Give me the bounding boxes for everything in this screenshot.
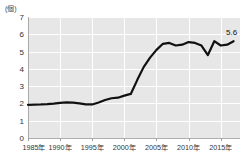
y-axis-unit-label: (個) [5,4,17,13]
y-axis-tick-label: 3 [20,82,25,91]
x-axis-tick-label: 2010年 [177,143,200,152]
x-axis-tick-label: 2015年 [209,143,232,152]
data-point-annotations: 5.6 [226,28,238,37]
x-axis-tick-label: 2000年 [113,143,136,152]
data-point-label: 5.6 [226,28,238,37]
y-axis-tick-label: 1 [20,117,25,126]
line-chart: (個) 01234567 1985年1990年1995年2000年2005年20… [0,0,248,159]
y-axis-tick-label: 6 [20,30,25,39]
x-axis-tick-label: 1990年 [49,143,72,152]
x-axis-tick-label: 1985年 [23,143,46,152]
y-axis-tick-label: 7 [20,13,25,22]
y-axis-tick-label: 2 [20,99,25,108]
y-axis-tick-label: 5 [20,48,25,57]
chart-canvas: (個) 01234567 1985年1990年1995年2000年2005年20… [0,0,248,159]
x-axis-tick-label: 2005年 [145,143,168,152]
y-axis-tick-label: 4 [20,65,25,74]
x-axis-tick-label: 1995年 [81,143,104,152]
plot-area-background [28,17,240,138]
